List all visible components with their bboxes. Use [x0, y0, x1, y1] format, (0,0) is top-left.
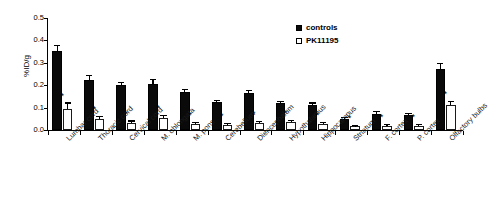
significance-marker: * [412, 113, 416, 122]
x-axis-line [47, 130, 463, 131]
bar-controls [436, 69, 446, 130]
significance-marker: * [380, 113, 384, 122]
bar-pk11195 [318, 124, 328, 130]
x-tick-mark [48, 131, 49, 135]
error-bar-controls [152, 80, 153, 84]
error-bar-controls [121, 83, 122, 85]
error-bar-cap-controls [277, 101, 283, 102]
error-bar-cap-pk11195 [160, 115, 166, 116]
error-bar-controls [57, 46, 58, 51]
bar-group: * [404, 18, 424, 130]
bar-pk11195 [350, 126, 360, 130]
error-bar-controls [440, 64, 441, 69]
bar-pk11195 [382, 126, 392, 130]
error-bar-cap-pk11195 [192, 122, 198, 123]
y-tick-label: 0.1 [34, 104, 44, 112]
x-tick-mark [176, 131, 177, 135]
error-bar-cap-controls [405, 113, 411, 114]
legend-item-controls: controls [296, 22, 386, 33]
error-bar-controls [408, 114, 409, 115]
error-bar-cap-controls [214, 100, 220, 101]
error-bar-controls [184, 90, 185, 92]
error-bar-cap-pk11195 [224, 123, 230, 124]
y-tick-label: 0.5 [34, 14, 44, 22]
x-tick-mark [208, 131, 209, 135]
x-tick-mark [463, 131, 464, 135]
y-tick-label: 0.4 [34, 37, 44, 45]
y-tick-label: 0.0 [34, 126, 44, 134]
error-bar-pk11195 [259, 122, 260, 123]
bar-group: * [84, 18, 104, 130]
bar-group: * [52, 18, 72, 130]
bar-pk11195 [446, 105, 456, 130]
error-bar-pk11195 [355, 126, 356, 127]
error-bar-controls [280, 102, 281, 103]
significance-marker: * [252, 110, 256, 119]
error-bar-cap-controls [373, 111, 379, 112]
significance-marker: * [60, 92, 64, 101]
x-tick-mark [112, 131, 113, 135]
bar-pk11195 [286, 122, 296, 130]
bar-pk11195 [414, 126, 424, 130]
x-tick-mark [144, 131, 145, 135]
error-bar-pk11195 [67, 104, 68, 110]
error-bar-cap-controls [246, 90, 252, 91]
legend-swatch-open-square-icon [296, 38, 302, 44]
error-bar-cap-pk11195 [256, 121, 262, 122]
error-bar-cap-pk11195 [416, 124, 422, 125]
bar-pk11195 [63, 109, 73, 130]
error-bar-cap-pk11195 [352, 125, 358, 126]
error-bar-controls [216, 101, 217, 102]
bar-group: * [244, 18, 264, 130]
bar-pk11195 [191, 124, 201, 130]
plot-area: ************* [48, 18, 463, 130]
error-bar-cap-pk11195 [288, 120, 294, 121]
bar-group: * [276, 18, 296, 130]
error-bar-cap-pk11195 [128, 120, 134, 121]
significance-marker: * [444, 90, 448, 99]
error-bar-cap-controls [341, 117, 347, 118]
significance-marker: * [188, 111, 192, 120]
bar-group: * [212, 18, 232, 130]
x-tick-mark [335, 131, 336, 135]
error-bar-cap-pk11195 [384, 124, 390, 125]
bar-group: * [180, 18, 200, 130]
significance-marker: * [124, 110, 128, 119]
error-bar-cap-pk11195 [96, 116, 102, 117]
x-tick-mark [303, 131, 304, 135]
error-bar-controls [312, 104, 313, 105]
x-tick-mark [399, 131, 400, 135]
error-bar-pk11195 [450, 102, 451, 105]
significance-marker: * [316, 111, 320, 120]
error-bar-pk11195 [99, 117, 100, 118]
significance-marker: * [284, 109, 288, 118]
bar-pk11195 [223, 125, 233, 130]
y-axis-tick-labels: 0.00.10.20.30.40.5 [22, 18, 44, 130]
y-tick-label: 0.3 [34, 59, 44, 66]
error-bar-controls [248, 91, 249, 93]
x-tick-mark [240, 131, 241, 135]
error-bar-cap-pk11195 [448, 101, 454, 102]
bar-pk11195 [255, 123, 265, 130]
y-tick-label: 0.2 [34, 81, 44, 89]
bar-group: * [116, 18, 136, 130]
x-tick-mark [80, 131, 81, 135]
bar-pk11195 [127, 123, 137, 130]
significance-marker: * [156, 104, 160, 113]
x-tick-mark [431, 131, 432, 135]
error-bar-pk11195 [291, 121, 292, 122]
error-bar-pk11195 [227, 124, 228, 125]
error-bar-cap-controls [309, 102, 315, 103]
legend-label-pk11195: PK11195 [306, 37, 338, 45]
x-tick-mark [367, 131, 368, 135]
significance-marker: * [348, 114, 352, 123]
error-bar-pk11195 [386, 125, 387, 126]
error-bar-cap-controls [437, 63, 443, 64]
bar-pk11195 [95, 119, 105, 130]
bar-group: * [148, 18, 168, 130]
error-bar-cap-controls [182, 89, 188, 90]
legend-swatch-filled-square-icon [296, 25, 302, 31]
error-bar-controls [89, 76, 90, 80]
error-bar-controls [344, 118, 345, 119]
